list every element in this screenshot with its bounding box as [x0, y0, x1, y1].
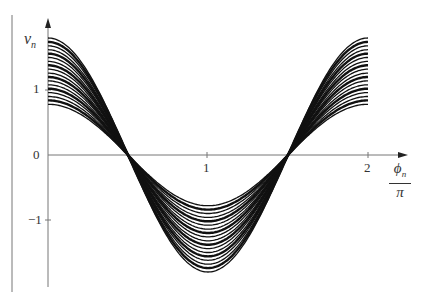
x-tick-label-1: 1 [203, 160, 210, 176]
y-tick-label-1: 1 [33, 81, 40, 97]
y-axis-label: vn [24, 30, 36, 50]
x-tick-label-2: 2 [364, 160, 371, 176]
y-tick-label-0: 0 [33, 147, 40, 163]
plot-area [0, 0, 423, 295]
x-axis-label: ϕn π [389, 160, 411, 200]
y-tick-label-m1: −1 [28, 212, 42, 228]
y-axis-arrow-icon [45, 18, 51, 28]
x-axis-arrow-icon [398, 152, 408, 158]
